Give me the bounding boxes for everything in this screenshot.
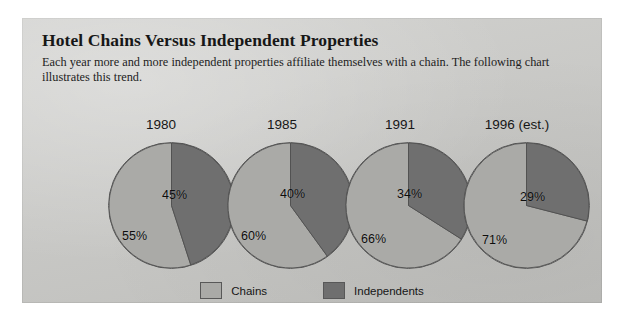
pie-chart-1980 bbox=[108, 142, 235, 269]
pie-chart-1996 bbox=[463, 142, 590, 269]
pie-title-1980: 1980 bbox=[106, 117, 216, 132]
pie-label-chains-1991: 66% bbox=[361, 232, 386, 246]
pie-svg-1991 bbox=[346, 143, 471, 268]
pie-chart-1985 bbox=[227, 142, 354, 269]
pie-label-chains-1996: 71% bbox=[482, 233, 507, 247]
pie-label-chains-1980: 55% bbox=[122, 229, 147, 243]
pie-title-1985: 1985 bbox=[227, 117, 337, 132]
pie-title-1991: 1991 bbox=[345, 117, 455, 132]
pie-label-independents-1996: 29% bbox=[520, 190, 545, 204]
pie-label-independents-1985: 40% bbox=[280, 187, 305, 201]
legend-item-independents: Independents bbox=[323, 282, 424, 299]
pie-label-independents-1991: 34% bbox=[397, 187, 422, 201]
pie-svg-1996 bbox=[464, 143, 589, 268]
legend-label-chains: Chains bbox=[231, 285, 267, 297]
page-title: Hotel Chains Versus Independent Properti… bbox=[42, 30, 378, 51]
pie-svg-1980 bbox=[109, 143, 234, 268]
pie-label-chains-1985: 60% bbox=[241, 229, 266, 243]
screenshot-root: Hotel Chains Versus Independent Properti… bbox=[0, 0, 627, 320]
legend-item-chains: Chains bbox=[200, 282, 267, 299]
pie-svg-1985 bbox=[228, 143, 353, 268]
chart-legend: Chains Independents bbox=[22, 282, 602, 299]
pie-label-independents-1980: 45% bbox=[162, 188, 187, 202]
pie-title-1996: 1996 (est.) bbox=[462, 117, 572, 132]
chart-panel: Hotel Chains Versus Independent Properti… bbox=[22, 18, 602, 303]
chart-panel-content: Hotel Chains Versus Independent Properti… bbox=[22, 18, 602, 303]
chart-subtitle: Each year more and more independent prop… bbox=[42, 55, 568, 84]
legend-label-independents: Independents bbox=[354, 285, 424, 297]
legend-swatch-chains-icon bbox=[200, 282, 222, 299]
legend-swatch-independents-icon bbox=[323, 282, 345, 299]
pie-chart-1991 bbox=[345, 142, 472, 269]
